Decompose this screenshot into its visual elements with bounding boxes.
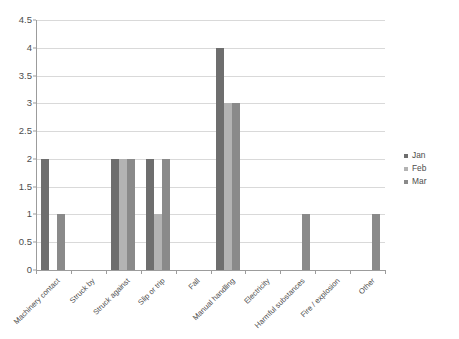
bar [41,159,49,270]
y-axis-tick-label: 4 [27,43,32,53]
x-axis-category-label: Struck against [92,277,132,317]
bar-group-bars [176,20,211,270]
bar-group [141,20,176,270]
legend-item[interactable]: Jan [404,149,426,162]
y-axis-tick-label: 3.5 [19,71,32,81]
bar-group-bars [315,20,350,270]
x-axis-tick-mark [36,270,37,274]
y-axis-tick-label: 3 [27,99,32,109]
bar [154,214,162,270]
x-axis-tick-mark [106,270,107,274]
y-axis-tick-label: 1 [27,210,32,220]
legend-item[interactable]: Feb [404,162,426,175]
bar-group [36,20,71,270]
x-axis-category-label: Other [357,277,376,296]
legend-label: Feb [412,164,426,172]
x-axis-tick-mark [280,270,281,274]
x-axis-tick-mark [141,270,142,274]
legend-swatch-icon [404,154,408,158]
bar-group [280,20,315,270]
bar-group [211,20,246,270]
y-axis-line [36,20,37,271]
x-axis-tick-mark [176,270,177,274]
bar [302,214,310,270]
bar [146,159,154,270]
x-axis-category-label: Fall [187,277,202,292]
x-axis-category-label: Electricity [243,277,272,306]
bar [127,159,135,270]
bar [224,103,232,270]
bar [216,48,224,270]
bar-group [245,20,280,270]
bar-group [315,20,350,270]
bar [372,214,380,270]
x-axis-tick-mark [315,270,316,274]
x-axis-category-label: Slip or trip [137,277,167,307]
bar-group-bars [106,20,141,270]
bar-group-bars [211,20,246,270]
legend-label: Mar [412,177,426,185]
x-axis-tick-mark [385,270,386,274]
bar-group-bars [280,20,315,270]
bar-group-bars [71,20,106,270]
bar-group-bars [141,20,176,270]
y-axis-tick-label: 0.5 [19,237,32,247]
bar-group [106,20,141,270]
y-axis-tick-label: 0 [27,265,32,275]
x-axis-tick-mark [245,270,246,274]
y-axis-tick-label: 4.5 [19,15,32,25]
bar [57,214,65,270]
bar [111,159,119,270]
legend-swatch-icon [404,180,408,184]
chart-legend: JanFebMar [404,149,426,188]
x-axis-tick-mark [71,270,72,274]
x-axis-tick-mark [211,270,212,274]
legend-label: Jan [412,151,426,159]
x-axis-category-label: Struck by [69,277,97,305]
bar-group [71,20,106,270]
bar [162,159,170,270]
x-axis-category-label: Machinery contact [13,277,62,326]
legend-swatch-icon [404,167,408,171]
bar [232,103,240,270]
bar-group [350,20,385,270]
y-axis-tick-label: 1.5 [19,182,32,192]
plot-area: 00.511.522.533.544.5 [36,20,385,270]
bar-chart: 00.511.522.533.544.5 Machinery contactSt… [0,0,459,339]
legend-item[interactable]: Mar [404,175,426,188]
bar [119,159,127,270]
bar-group [176,20,211,270]
bar-group-bars [245,20,280,270]
y-axis-tick-label: 2 [27,154,32,164]
x-axis-tick-mark [350,270,351,274]
y-axis-tick-label: 2.5 [19,126,32,136]
bar-group-bars [350,20,385,270]
bar-group-bars [36,20,71,270]
